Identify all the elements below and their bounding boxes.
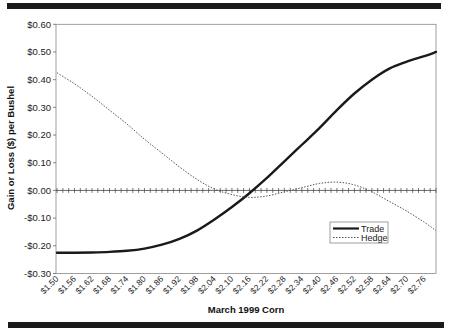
y-tick-label: $0.00 [27,185,51,196]
x-tick-label: $1.62 [73,274,95,296]
x-axis: $1.50$1.56$1.62$1.68$1.74$1.80$1.86$1.92… [38,274,428,296]
x-tick-label: $1.68 [91,274,113,296]
x-tick-label: $1.56 [56,274,78,296]
y-tick-label: $0.20 [27,129,51,140]
y-tick-label: $0.60 [27,19,51,30]
x-tick-label: $1.98 [178,274,200,296]
legend: Trade Hedge [330,222,388,243]
y-tick-label: $0.50 [27,46,51,57]
y-tick-label: $0.10 [27,157,51,168]
y-tick-label: -$0.10 [24,212,51,223]
y-axis: $0.60$0.50$0.40$0.30$0.20$0.10$0.00-$0.1… [24,19,56,279]
x-axis-title: March 1999 Corn [208,304,285,315]
x-tick-label: $1.92 [161,274,183,296]
x-tick-label: $1.86 [143,274,165,296]
x-tick-label: $2.28 [266,274,288,296]
x-tick-label: $2.04 [196,274,218,296]
x-tick-label: $2.16 [231,274,253,296]
x-tick-label: $2.22 [248,274,270,296]
x-tick-label: $2.58 [353,274,375,296]
x-tick-label: $1.74 [108,274,130,296]
zero-line [56,188,436,193]
series-line-hedge [57,73,436,231]
x-tick-label: $2.52 [336,274,358,296]
x-tick-label: $2.10 [213,274,235,296]
x-tick-label: $2.46 [318,274,340,296]
y-tick-label: -$0.30 [24,268,51,279]
x-tick-label: $2.76 [406,274,428,296]
y-tick-label: $0.40 [27,74,51,85]
x-tick-label: $2.34 [283,274,305,296]
legend-label-hedge: Hedge [361,233,388,243]
y-tick-label: -$0.20 [24,240,51,251]
x-tick-label: $1.80 [126,274,148,296]
line-chart: $0.60$0.50$0.40$0.30$0.20$0.10$0.00-$0.1… [0,0,450,336]
x-tick-label: $2.40 [301,274,323,296]
y-tick-label: $0.30 [27,102,51,113]
y-axis-title: Gain or Loss ($) per Bushel [5,86,16,210]
x-tick-label: $2.64 [371,274,393,296]
x-tick-label: $2.70 [388,274,410,296]
